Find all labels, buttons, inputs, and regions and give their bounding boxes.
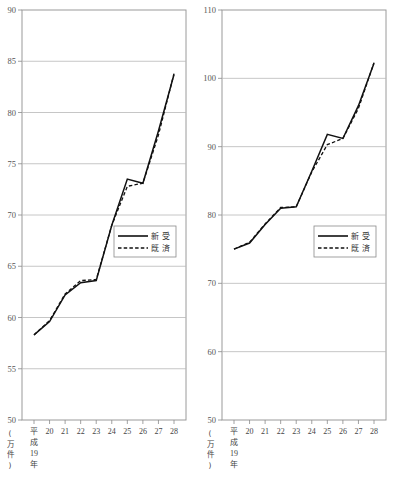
y-axis-tick-label: 70	[208, 278, 217, 288]
era-label-right: 成19年	[230, 437, 238, 469]
x-axis-tick-label: 28	[170, 427, 178, 436]
x-axis-ticks	[34, 420, 174, 424]
x-axis-tick-label: 20	[46, 427, 54, 436]
x-axis-tick-label: 24	[108, 427, 116, 436]
chart-right-svg: 5060708090100110 平202122232425262728 新 受…	[200, 0, 400, 486]
y-axis-tick-label: 90	[8, 5, 17, 15]
units-label-char: 件	[207, 449, 215, 459]
x-axis-tick-label: 23	[92, 427, 100, 436]
x-axis-tick-label: 22	[277, 427, 285, 436]
y-axis-tick-label: 55	[8, 364, 17, 374]
y-axis-tick-label: 80	[8, 108, 17, 118]
chart-left: 505560657075808590 平202122232425262728 新…	[0, 0, 200, 486]
y-axis-tick-label: 50	[208, 415, 217, 425]
x-axis-tick-label: 21	[61, 427, 69, 436]
units-label-char: 万	[7, 440, 15, 449]
era-label-part: 年	[230, 459, 238, 469]
era-label-part: 19	[30, 449, 38, 458]
x-axis-tick-label: 27	[354, 427, 362, 436]
units-label-left: (万件)	[7, 429, 15, 470]
era-label-left: 成19年	[30, 437, 38, 469]
y-axis-tick-label: 80	[208, 210, 217, 220]
x-axis-tick-label: 27	[154, 427, 162, 436]
y-axis-labels: 505560657075808590	[8, 5, 17, 425]
x-axis-tick-label: 24	[308, 427, 316, 436]
chart-left-svg: 505560657075808590 平202122232425262728 新…	[0, 0, 200, 486]
chart-right: 5060708090100110 平202122232425262728 新 受…	[200, 0, 400, 486]
legend-label-kizai: 既 済	[151, 243, 170, 253]
era-label-part: 成	[230, 437, 238, 447]
era-label-part: 成	[30, 437, 38, 447]
units-label-char: (	[209, 429, 212, 438]
x-axis-tick-label: 25	[123, 427, 131, 436]
legend-label-shinju: 新 受	[151, 231, 170, 241]
x-axis-tick-label: 23	[292, 427, 300, 436]
units-label-char: (	[9, 429, 12, 438]
y-axis-tick-label: 75	[8, 159, 17, 169]
y-axis-labels: 5060708090100110	[203, 5, 216, 425]
y-axis-tick-label: 60	[8, 313, 17, 323]
y-axis-tick-label: 65	[8, 261, 17, 271]
legend-left: 新 受既 済	[114, 226, 176, 257]
legend-right: 新 受既 済	[314, 226, 376, 257]
x-axis-tick-label: 20	[246, 427, 254, 436]
units-label-char: 万	[207, 440, 215, 449]
era-label-part: 19	[230, 449, 238, 458]
y-axis-tick-label: 60	[208, 347, 217, 357]
y-axis-tick-label: 100	[203, 73, 216, 83]
y-axis-tick-label: 85	[8, 56, 17, 66]
x-axis-tick-label: 25	[323, 427, 331, 436]
x-axis-tick-label: 21	[261, 427, 269, 436]
x-axis-tick-label: 平	[30, 427, 38, 436]
x-axis-labels: 平202122232425262728	[30, 427, 178, 436]
x-axis-tick-label: 26	[339, 427, 347, 436]
y-axis-tick-label: 70	[8, 210, 17, 220]
plot-area-right: 5060708090100110 平202122232425262728	[203, 5, 386, 436]
x-axis-tick-label: 22	[77, 427, 85, 436]
legend-label-kizai: 既 済	[351, 243, 370, 253]
x-axis-labels: 平202122232425262728	[230, 427, 378, 436]
units-label-char: )	[9, 461, 12, 470]
figure-container: 505560657075808590 平202122232425262728 新…	[0, 0, 400, 486]
units-label-char: 件	[7, 449, 15, 459]
units-label-char: )	[209, 461, 212, 470]
x-axis-tick-label: 26	[139, 427, 147, 436]
era-label-part: 年	[30, 459, 38, 469]
x-axis-ticks	[234, 420, 374, 424]
y-axis-tick-label: 90	[208, 142, 217, 152]
plot-area-left: 505560657075808590 平202122232425262728	[8, 5, 187, 436]
x-axis-tick-label: 28	[370, 427, 378, 436]
units-label-right: (万件)	[207, 429, 215, 470]
legend-label-shinju: 新 受	[351, 231, 370, 241]
x-axis-tick-label: 平	[230, 427, 238, 436]
y-axis-tick-label: 50	[8, 415, 17, 425]
y-axis-tick-label: 110	[204, 5, 216, 15]
